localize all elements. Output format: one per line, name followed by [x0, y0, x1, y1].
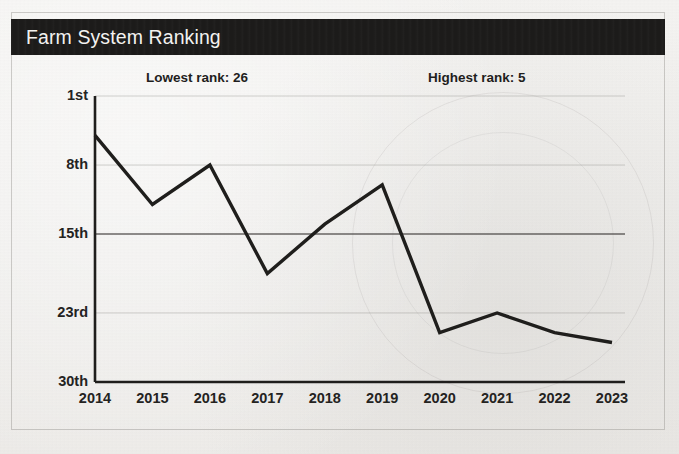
x-tick-label: 2020	[424, 390, 456, 406]
y-tick-label: 15th	[28, 225, 88, 241]
y-axis-tick-labels: 1st8th15th23rd30th	[28, 0, 88, 454]
x-tick-label: 2015	[136, 390, 168, 406]
y-tick-label: 23rd	[28, 304, 88, 320]
x-tick-label: 2019	[366, 390, 398, 406]
x-tick-label: 2014	[79, 390, 111, 406]
chart-page: Farm System Ranking Lowest rank: 26 High…	[0, 0, 679, 454]
line-chart-plot	[0, 0, 679, 454]
y-tick-label: 1st	[28, 87, 88, 103]
x-tick-label: 2016	[194, 390, 226, 406]
gridlines-group	[95, 96, 625, 382]
y-tick-label: 8th	[28, 156, 88, 172]
x-tick-label: 2021	[481, 390, 513, 406]
x-tick-label: 2018	[309, 390, 341, 406]
x-tick-label: 2017	[251, 390, 283, 406]
chart-svg	[0, 0, 679, 454]
x-tick-label: 2022	[538, 390, 570, 406]
page-title: Farm System Ranking	[11, 26, 221, 49]
y-tick-label: 30th	[28, 373, 88, 389]
data-series-line-0	[95, 135, 612, 342]
axes-group	[95, 96, 625, 382]
data-line-group	[95, 135, 612, 342]
x-tick-label: 2023	[596, 390, 628, 406]
x-axis-tick-labels: 2014201520162017201820192020202120222023	[0, 390, 679, 412]
